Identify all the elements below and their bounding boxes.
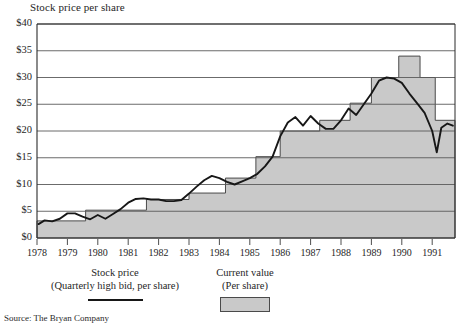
x-tick-label-1988: 1988 xyxy=(324,247,358,258)
y-tick-label-35: $35 xyxy=(2,44,32,55)
legend-box-swatch xyxy=(220,297,270,312)
x-tick-label-1983: 1983 xyxy=(172,247,206,258)
source-note: Source: The Bryan Company xyxy=(4,313,109,323)
x-tick-label-1982: 1982 xyxy=(142,247,176,258)
x-tick-label-1980: 1980 xyxy=(81,247,115,258)
x-tick-label-1990: 1990 xyxy=(385,247,419,258)
x-tick-label-1986: 1986 xyxy=(263,247,297,258)
legend-label-primary: Current value xyxy=(185,266,305,279)
x-tick-label-1978: 1978 xyxy=(20,247,54,258)
legend-item-current-value: Current value(Per share) xyxy=(185,266,305,312)
y-tick-label-0: $0 xyxy=(2,231,32,242)
y-tick-label-20: $20 xyxy=(2,124,32,135)
x-tick-label-1989: 1989 xyxy=(354,247,388,258)
y-tick-label-5: $5 xyxy=(2,204,32,215)
x-tick-label-1987: 1987 xyxy=(294,247,328,258)
y-tick-label-40: $40 xyxy=(2,17,32,28)
y-tick-label-30: $30 xyxy=(2,71,32,82)
chart-figure: Stock price per share $0$5$10$15$20$25$3… xyxy=(0,0,470,323)
x-tick-label-1979: 1979 xyxy=(50,247,84,258)
legend-label-secondary: (Per share) xyxy=(185,279,305,292)
x-tick-label-1981: 1981 xyxy=(111,247,145,258)
x-tick-label-1991: 1991 xyxy=(415,247,449,258)
y-tick-label-10: $10 xyxy=(2,178,32,189)
legend-label-primary: Stock price xyxy=(40,266,190,279)
legend-label-secondary: (Quarterly high bid, per share) xyxy=(40,279,190,292)
x-tick-label-1985: 1985 xyxy=(233,247,267,258)
y-tick-label-25: $25 xyxy=(2,97,32,108)
x-tick-label-1984: 1984 xyxy=(202,247,236,258)
plot-area xyxy=(0,0,470,266)
legend-line-swatch xyxy=(88,299,143,301)
legend-item-stock-price: Stock price(Quarterly high bid, per shar… xyxy=(40,266,190,301)
y-tick-label-15: $15 xyxy=(2,151,32,162)
chart-legend: Stock price(Quarterly high bid, per shar… xyxy=(0,266,470,318)
